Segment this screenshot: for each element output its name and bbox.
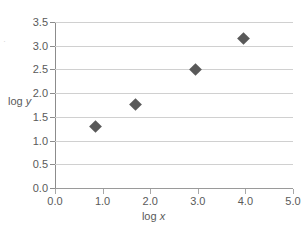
data-point xyxy=(238,32,251,45)
x-axis-label-4.0: 4.0 xyxy=(225,196,265,207)
x-axis-tick xyxy=(198,189,199,194)
scatter-chart: · 0.00.51.01.52.02.53.03.5 log y log x 0… xyxy=(0,0,307,225)
axis-title-variable: x xyxy=(160,210,166,222)
gridline-y-2.0 xyxy=(55,93,293,94)
x-axis-label-3.0: 3.0 xyxy=(178,196,218,207)
y-axis-tick xyxy=(50,141,55,142)
y-axis-tick xyxy=(50,22,55,23)
y-axis-label-1.0: 1.0 xyxy=(14,136,48,147)
plot-area xyxy=(55,22,293,188)
y-axis-label-0.5: 0.5 xyxy=(14,159,48,170)
scan-artifact: · xyxy=(3,38,9,45)
x-axis-tick xyxy=(245,189,246,194)
y-axis-tick xyxy=(50,164,55,165)
x-axis-title: log x xyxy=(0,210,307,222)
x-axis-tick xyxy=(55,189,56,194)
y-axis-tick xyxy=(50,69,55,70)
y-axis-label-3.0: 3.0 xyxy=(14,41,48,52)
x-axis-label-5.0: 5.0 xyxy=(273,196,307,207)
x-axis-label-1.0: 1.0 xyxy=(83,196,123,207)
y-axis-tick-labels: 0.00.51.01.52.02.53.03.5 xyxy=(10,0,48,225)
data-point xyxy=(130,98,143,111)
axis-title-variable: y xyxy=(26,95,32,107)
x-axis-label-0.0: 0.0 xyxy=(35,196,75,207)
y-axis-title: log y xyxy=(8,95,31,107)
axis-title-word: log xyxy=(8,95,26,107)
x-axis-tick xyxy=(150,189,151,194)
y-axis-label-3.5: 3.5 xyxy=(14,17,48,28)
gridline-y-0.0 xyxy=(55,188,293,189)
data-point xyxy=(189,63,202,76)
gridline-y-2.5 xyxy=(55,69,293,70)
y-axis-tick xyxy=(50,117,55,118)
x-axis-label-2.0: 2.0 xyxy=(130,196,170,207)
gridline-y-1.5 xyxy=(55,117,293,118)
gridline-y-1.0 xyxy=(55,141,293,142)
x-axis-tick xyxy=(293,189,294,194)
y-axis-tick xyxy=(50,46,55,47)
y-axis-label-0.0: 0.0 xyxy=(14,183,48,194)
axis-title-word: log xyxy=(142,210,160,222)
x-axis-tick xyxy=(103,189,104,194)
data-point xyxy=(90,120,103,133)
gridline-y-3.5 xyxy=(55,22,293,23)
gridline-y-0.5 xyxy=(55,164,293,165)
y-axis-tick xyxy=(50,93,55,94)
y-axis-label-2.5: 2.5 xyxy=(14,64,48,75)
gridline-y-3.0 xyxy=(55,46,293,47)
y-axis-label-1.5: 1.5 xyxy=(14,112,48,123)
